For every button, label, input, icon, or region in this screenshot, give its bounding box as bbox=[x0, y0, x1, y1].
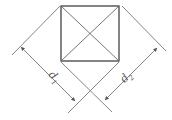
diagram-canvas bbox=[0, 0, 172, 120]
extension-line-bottom-right bbox=[61, 62, 112, 112]
extension-line-right bbox=[122, 6, 166, 51]
extension-line-left bbox=[12, 6, 60, 55]
extension-line-bottom-left bbox=[68, 62, 119, 113]
